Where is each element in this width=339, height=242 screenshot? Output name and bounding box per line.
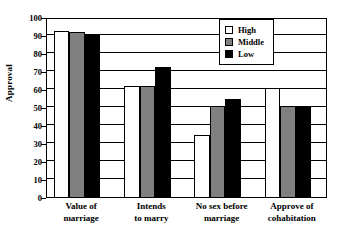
y-tick-mark xyxy=(41,162,46,163)
y-tick-mark xyxy=(41,180,46,181)
y-tick-label: 10 xyxy=(20,175,42,185)
y-tick-mark xyxy=(41,198,46,199)
x-category-label: Intendsto marry xyxy=(116,201,186,224)
bar xyxy=(124,86,140,198)
bar xyxy=(140,86,156,198)
bars-layer xyxy=(46,18,327,198)
y-tick-label: 90 xyxy=(20,31,42,41)
y-tick-label: 100 xyxy=(20,13,42,23)
y-tick-label: 40 xyxy=(20,121,42,131)
y-tick-label: 50 xyxy=(20,103,42,113)
y-tick-mark xyxy=(41,36,46,37)
bar xyxy=(155,67,171,198)
y-axis-title: Approval xyxy=(4,48,14,118)
x-category-label: Approve ofcohabitation xyxy=(257,201,327,224)
x-axis-category-labels: Value ofmarriageIntendsto marryNo sex be… xyxy=(46,201,327,241)
y-tick-mark xyxy=(41,72,46,73)
y-tick-mark xyxy=(41,144,46,145)
bar xyxy=(54,31,70,198)
legend-item-high: High xyxy=(225,24,264,36)
x-category-label: No sex beforemarriage xyxy=(187,201,257,224)
legend-label: High xyxy=(238,25,256,35)
legend: HighMiddleLow xyxy=(219,19,274,65)
bar xyxy=(85,34,101,198)
y-tick-label: 0 xyxy=(20,193,42,203)
y-axis-tick-labels: 1009080706050403020100 xyxy=(18,0,42,242)
legend-swatch-high xyxy=(225,26,233,34)
x-category-label: Value ofmarriage xyxy=(46,201,116,224)
legend-swatch-middle xyxy=(225,38,233,46)
bar-chart: Approval 1009080706050403020100 Value of… xyxy=(0,0,339,242)
bar xyxy=(296,106,312,198)
bar xyxy=(69,32,85,198)
bar xyxy=(210,106,226,198)
bar xyxy=(225,99,241,198)
legend-swatch-low xyxy=(225,50,233,58)
y-tick-mark xyxy=(41,126,46,127)
y-tick-label: 80 xyxy=(20,49,42,59)
legend-item-low: Low xyxy=(225,48,264,60)
y-tick-mark xyxy=(41,108,46,109)
y-tick-mark xyxy=(41,18,46,19)
y-tick-label: 60 xyxy=(20,85,42,95)
y-tick-label: 20 xyxy=(20,157,42,167)
bar xyxy=(265,88,281,198)
bar xyxy=(280,106,296,198)
bar xyxy=(194,135,210,198)
legend-item-middle: Middle xyxy=(225,36,264,48)
legend-label: Low xyxy=(238,49,254,59)
legend-label: Middle xyxy=(238,37,264,47)
y-tick-mark xyxy=(41,54,46,55)
y-tick-label: 70 xyxy=(20,67,42,77)
y-tick-label: 30 xyxy=(20,139,42,149)
y-tick-mark xyxy=(41,90,46,91)
